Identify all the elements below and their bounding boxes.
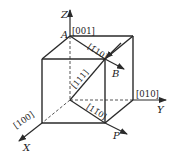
point-b-label: B [111, 68, 119, 79]
x-axis-label: X [22, 142, 31, 153]
edge-o-x [42, 100, 70, 123]
label-010: [010] [136, 89, 159, 99]
point-p-label: P [112, 130, 120, 141]
bottom-right-edge [105, 100, 133, 123]
incoming-arrow [106, 43, 121, 58]
point-a-label: A [60, 29, 68, 40]
y-axis-label: Y [157, 104, 165, 115]
cubic-crystal-diagram: Z Y X A B P [001] [010] [100] [111] [1̄1… [0, 0, 174, 155]
label-001: [001] [72, 26, 95, 36]
z-axis-label: Z [60, 9, 69, 20]
label-100: [100] [11, 109, 35, 130]
